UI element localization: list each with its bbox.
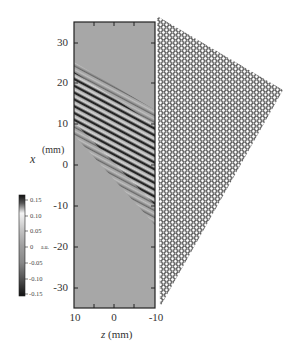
- x-tick-label: -10: [141, 312, 171, 323]
- colorbar-tick-label: -0.15: [29, 291, 43, 298]
- x-axis-title: z (mm): [101, 328, 132, 340]
- y-tick-label: -10: [38, 200, 68, 211]
- y-axis-variable: x: [30, 152, 35, 166]
- x-tick-label: 0: [99, 312, 129, 323]
- y-axis-unit: (mm): [42, 144, 64, 155]
- y-tick-label: 10: [38, 118, 68, 129]
- x-tick-label: 10: [60, 312, 90, 323]
- colorbar-tick-label: -0.10: [29, 276, 43, 283]
- figure-canvas: [0, 0, 299, 355]
- colorbar-tick-label: 0: [30, 244, 33, 251]
- x-axis-variable: z: [101, 328, 105, 340]
- y-tick-label: 30: [38, 37, 68, 48]
- colorbar-tick-label: -0.05: [29, 260, 43, 267]
- colorbar-tick-label: 0.10: [30, 213, 41, 220]
- colorbar: [19, 195, 25, 296]
- heatmap-plot: [74, 22, 155, 308]
- colorbar-tick-label: 0.15: [30, 197, 41, 204]
- x-axis-unit: (mm): [108, 328, 132, 340]
- y-axis-title: x: [30, 152, 35, 167]
- colorbar-tick-label: 0.05: [30, 228, 41, 235]
- colorbar-ticks: [25, 200, 28, 294]
- y-tick-label: 0: [38, 159, 68, 170]
- colorbar-unit: a.u.: [41, 245, 49, 251]
- transducer-array-triangle: [157, 16, 283, 307]
- y-tick-label: 20: [38, 77, 68, 88]
